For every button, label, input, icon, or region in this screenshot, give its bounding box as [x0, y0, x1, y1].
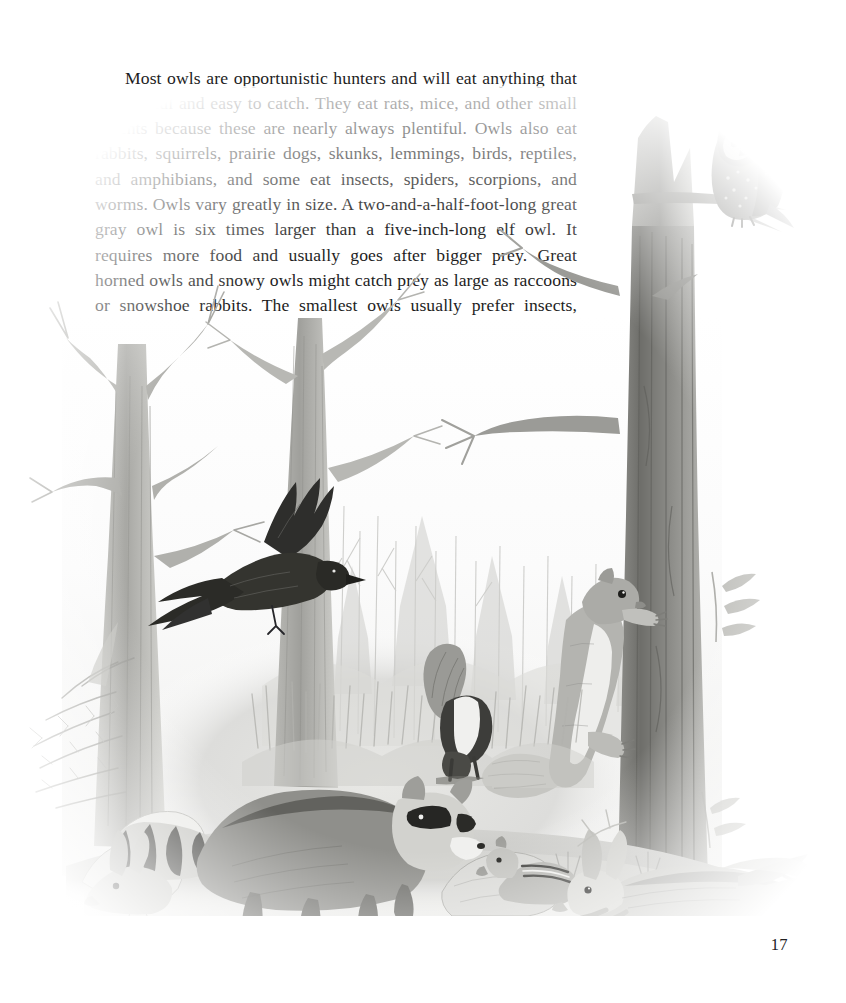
forest-illustration: [22, 86, 822, 916]
book-page: Most owls are opportunistic hunters and …: [0, 0, 846, 1003]
illustration-vignette: [22, 86, 822, 916]
page-number: 17: [771, 935, 788, 955]
illustration-canvas: [22, 86, 822, 916]
